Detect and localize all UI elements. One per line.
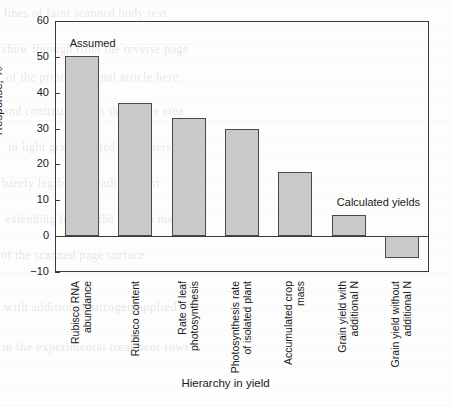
y-axis-tick [55,164,60,165]
zero-baseline [55,236,429,237]
y-axis-tick [55,272,60,273]
bar [118,103,152,236]
y-axis-tick-label: 10 [15,193,49,205]
ghost-line: in the experimental treatment rows [2,340,190,355]
y-axis-title: Response, % [0,67,4,135]
y-axis-tick [55,93,60,94]
y-axis-tick [55,236,60,237]
y-axis-tick-label: 0 [15,229,49,241]
y-axis-tick-label: 30 [15,122,49,134]
bar [278,172,312,236]
bar [225,129,259,236]
figure-canvas: lines of faint scanned body text show th… [0,0,451,406]
y-axis-tick [55,57,60,58]
bar [172,118,206,236]
x-axis-title: Hierarchy in yield [0,377,451,389]
y-axis-tick-label: 60 [15,14,49,26]
y-axis-tick-label: 40 [15,86,49,98]
bar-annotation: Assumed [70,37,116,49]
bar-annotation: Calculated yields [337,196,420,208]
y-axis-tick-label: 20 [15,157,49,169]
y-axis-tick-label: −10 [15,265,49,277]
bar [385,236,419,258]
y-axis-tick [55,200,60,201]
y-axis-tick [55,129,60,130]
bar [332,215,366,237]
y-axis-tick [55,21,60,22]
bar [65,56,99,236]
y-axis-tick-label: 50 [15,50,49,62]
plot-area: AssumedCalculated yields [55,21,429,272]
